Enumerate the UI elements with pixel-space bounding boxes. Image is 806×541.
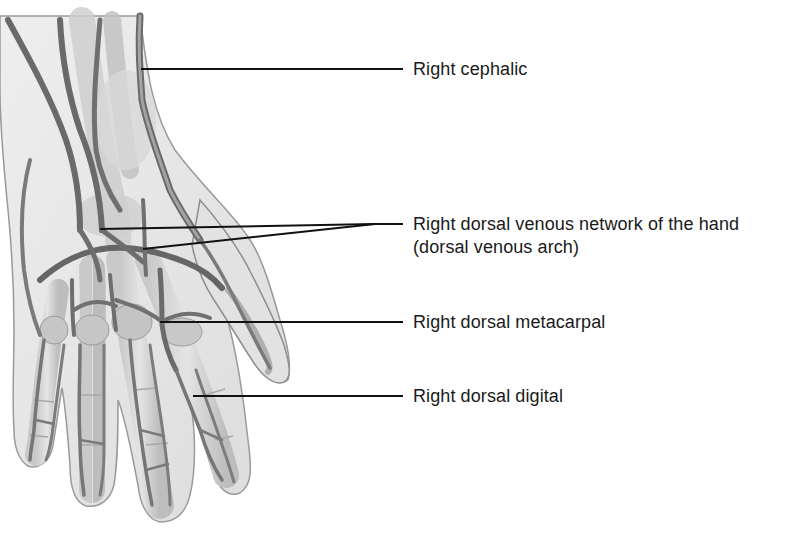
- label-dorsal-venous-arch: (dorsal venous arch): [413, 236, 579, 258]
- label-right-dorsal-digital: Right dorsal digital: [413, 385, 563, 407]
- hand-vein-illustration: [0, 0, 806, 541]
- label-right-dorsal-venous-network: Right dorsal venous network of the hand: [413, 213, 739, 235]
- label-right-cephalic: Right cephalic: [413, 58, 527, 80]
- label-right-dorsal-metacarpal: Right dorsal metacarpal: [413, 311, 605, 333]
